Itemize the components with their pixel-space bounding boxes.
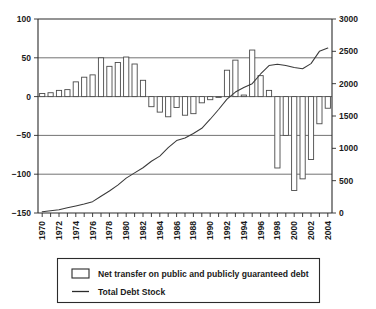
x-axis-ticks <box>42 213 328 217</box>
x-tick-label-1982: 1982 <box>138 221 148 240</box>
legend-entry-net-transfer: Net transfer on public and publicly guar… <box>98 269 309 279</box>
chart-figure: 100500−50−100−150 3000250020001500100050… <box>0 0 376 309</box>
y2-tick-label: 0 <box>339 208 344 218</box>
y2-tick-label: 1000 <box>339 143 358 153</box>
x-tick-label-1976: 1976 <box>88 221 98 240</box>
bar-swatch-icon <box>72 269 89 278</box>
y-tick-label: 50 <box>22 53 32 63</box>
bar-2003 <box>317 97 322 124</box>
bar-1995 <box>250 50 255 97</box>
x-tick-label-1992: 1992 <box>222 221 232 240</box>
bar-1996 <box>258 76 263 97</box>
bar-1982 <box>140 80 145 96</box>
chart-legend: Net transfer on public and publicly guar… <box>58 259 320 303</box>
y2-tick-label: 3000 <box>339 14 358 24</box>
x-tick-label-1996: 1996 <box>256 221 266 240</box>
bar-1970 <box>40 94 45 97</box>
y-tick-label: −100 <box>12 169 31 179</box>
x-tick-label-1978: 1978 <box>105 221 115 240</box>
bar-1989 <box>199 97 204 103</box>
bar-1975 <box>82 77 87 96</box>
bar-1978 <box>107 66 112 96</box>
bar-2001 <box>300 97 305 179</box>
y2-tick-label: 1500 <box>339 111 358 121</box>
bar-2002 <box>308 97 313 160</box>
bar-1997 <box>266 90 271 96</box>
y2-axis-ticks <box>332 19 336 213</box>
x-tick-label-1984: 1984 <box>155 221 165 240</box>
bar-1988 <box>191 97 196 114</box>
x-tick-label-1974: 1974 <box>71 221 81 240</box>
y-axis-ticks <box>34 19 38 213</box>
y2-tick-label: 2000 <box>339 79 358 89</box>
x-tick-label-1970: 1970 <box>37 221 47 240</box>
bar-1979 <box>115 62 120 96</box>
bar-1999 <box>283 97 288 136</box>
x-tick-label-1990: 1990 <box>205 221 215 240</box>
x-tick-label-1988: 1988 <box>189 221 199 240</box>
bar-1980 <box>124 57 129 97</box>
x-tick-label-1998: 1998 <box>273 221 283 240</box>
bar-1983 <box>149 97 154 107</box>
x-tick-label-1972: 1972 <box>54 221 64 240</box>
bar-2004 <box>325 97 330 109</box>
x-tick-label-2000: 2000 <box>289 221 299 240</box>
y-tick-label: −50 <box>17 130 32 140</box>
bar-1971 <box>48 93 53 97</box>
x-tick-label-1986: 1986 <box>172 221 182 240</box>
y2-tick-label: 500 <box>339 176 353 186</box>
x-tick-label-2004: 2004 <box>323 221 333 240</box>
bar-1981 <box>132 64 137 97</box>
x-tick-label-2002: 2002 <box>306 221 316 240</box>
bar-1992 <box>224 70 229 96</box>
bar-1987 <box>182 97 187 116</box>
bar-1991 <box>216 97 221 98</box>
bar-1990 <box>208 97 213 100</box>
y-tick-label: 100 <box>17 14 31 24</box>
bar-1974 <box>73 82 78 97</box>
y2-axis-tick-labels: 300025002000150010005000 <box>339 14 358 218</box>
y2-tick-label: 2500 <box>339 46 358 56</box>
bar-1972 <box>56 90 61 96</box>
bar-1977 <box>98 58 103 97</box>
bar-1976 <box>90 75 95 97</box>
x-tick-label-1994: 1994 <box>239 221 249 240</box>
y-tick-label: −150 <box>12 208 31 218</box>
bar-1986 <box>174 97 179 108</box>
x-tick-label-1980: 1980 <box>121 221 131 240</box>
bar-series <box>40 50 331 190</box>
x-axis-tick-labels: 1970197219741976197819801982198419861988… <box>37 221 333 240</box>
y-axis-tick-labels: 100500−50−100−150 <box>12 14 31 218</box>
bar-2000 <box>292 97 297 191</box>
bar-1994 <box>241 95 246 97</box>
bar-1973 <box>65 90 70 97</box>
bar-1998 <box>275 97 280 168</box>
legend-entry-total-debt-stock: Total Debt Stock <box>98 287 165 297</box>
y-tick-label: 0 <box>26 92 31 102</box>
bar-1984 <box>157 97 162 113</box>
bar-1985 <box>166 97 171 117</box>
legend-border <box>58 259 320 303</box>
